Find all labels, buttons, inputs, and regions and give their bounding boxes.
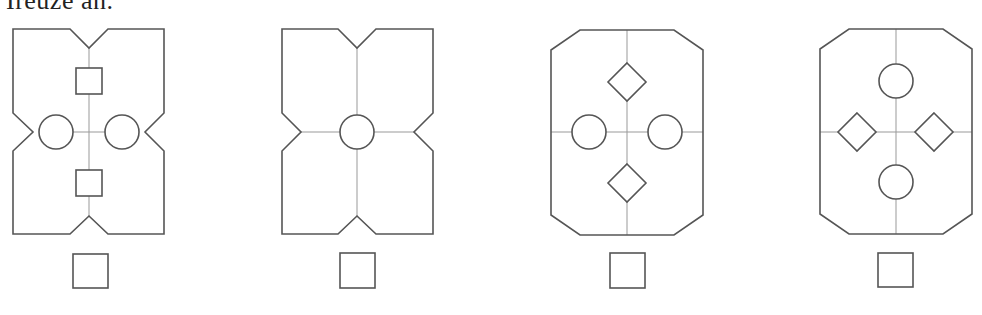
circle-shape	[39, 115, 73, 149]
figure-1	[13, 29, 164, 288]
diamond-shape	[608, 63, 646, 101]
circle-shape	[879, 64, 913, 98]
figure-2	[282, 29, 433, 288]
circle-shape	[340, 115, 374, 149]
figure-4	[820, 29, 972, 287]
answer-box-1[interactable]	[73, 254, 108, 288]
answer-box-2[interactable]	[340, 253, 375, 288]
answer-box-3[interactable]	[610, 253, 645, 288]
square-shape	[76, 68, 102, 94]
circle-shape	[879, 165, 913, 199]
diamond-shape	[838, 113, 876, 151]
circle-shape	[572, 115, 606, 149]
answer-box-4[interactable]	[878, 253, 913, 287]
diamond-shape	[915, 113, 953, 151]
circle-shape	[105, 115, 139, 149]
square-shape	[76, 170, 102, 196]
circle-shape	[648, 115, 682, 149]
figure-3	[551, 30, 703, 288]
diamond-shape	[608, 164, 646, 202]
